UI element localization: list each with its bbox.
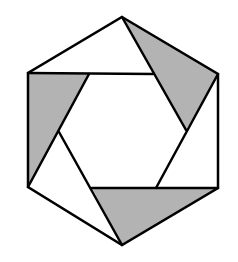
shaded-triangle bbox=[92, 188, 218, 245]
shaded-triangles bbox=[28, 17, 218, 245]
division-line bbox=[28, 73, 153, 74]
pinwheel-hexagon-figure bbox=[0, 0, 238, 262]
